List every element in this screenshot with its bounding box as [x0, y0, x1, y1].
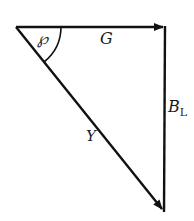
vector-bl-line: [164, 26, 165, 212]
vector-triangle-diagram: ℘ G BL Y: [0, 0, 194, 221]
vector-y-label: Y: [86, 127, 98, 145]
vector-bl-label: BL: [167, 97, 188, 119]
angle-label: ℘: [37, 29, 49, 48]
vector-g-label: G: [100, 29, 113, 48]
vector-y-arrow: [16, 27, 162, 209]
